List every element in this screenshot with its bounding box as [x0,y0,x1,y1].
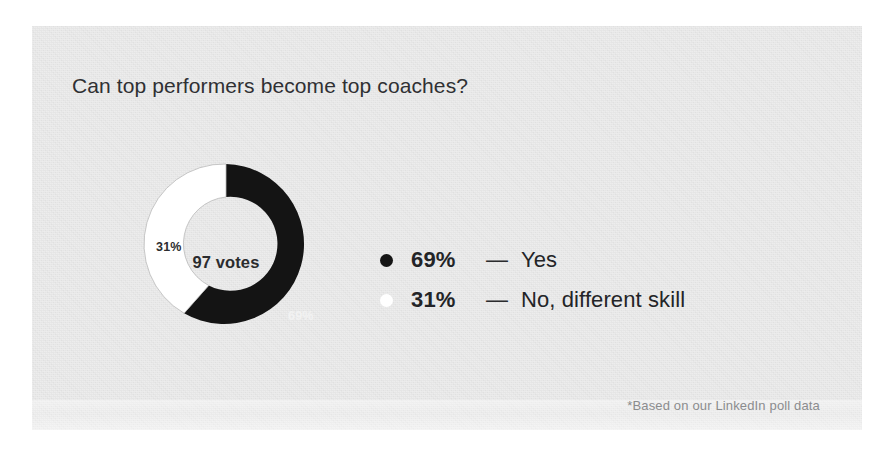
legend-dot-icon-yes [380,254,393,267]
legend-value-no: 31% [411,287,473,313]
donut-center-total: 97 votes [193,253,260,271]
donut-slice-label-no: 31% [156,240,182,254]
poster-canvas: Can top performers become top coaches? 3… [0,0,894,461]
donut-slice-label-yes: 69% [288,309,314,323]
legend-value-yes: 69% [411,247,473,273]
poll-result-card: Can top performers become top coaches? 3… [32,26,862,430]
legend-separator-no: — [473,287,521,313]
legend-item-yes[interactable]: 69% — Yes [380,240,685,280]
legend-separator-yes: — [473,247,521,273]
donut-chart-svg: 31% 69% 97 votes [112,130,340,358]
legend-item-no[interactable]: 31% — No, different skill [380,280,685,320]
legend-dot-icon-no [380,294,393,307]
page-title: Can top performers become top coaches? [72,72,468,100]
donut-chart: 31% 69% 97 votes [112,130,340,358]
source-footnote: *Based on our LinkedIn poll data [627,397,820,415]
chart-legend: 69% — Yes 31% — No, different skill [380,240,685,320]
legend-label-no: No, different skill [521,287,685,313]
legend-label-yes: Yes [521,247,557,273]
